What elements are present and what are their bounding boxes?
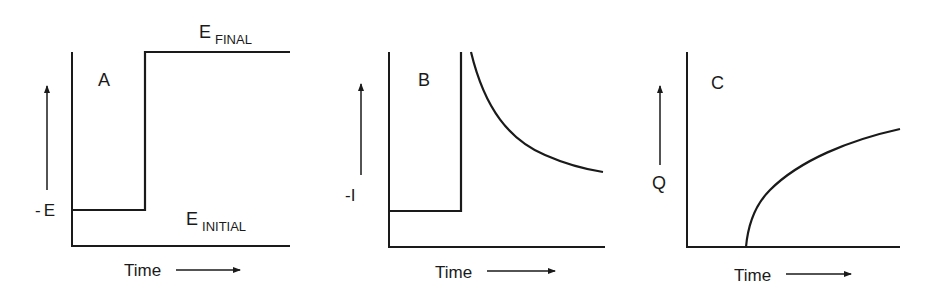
electrochemistry-figure: -E A EFINAL EINITIAL Time -I B Time Q C … (0, 0, 933, 295)
panel-b: -I B Time (345, 52, 605, 282)
panel-b-xlabel: Time (435, 263, 472, 282)
panel-b-letter: B (418, 70, 430, 90)
panel-b-ylabel: -I (345, 186, 355, 205)
panel-a-letter: A (98, 70, 110, 90)
panel-c-letter: C (711, 73, 724, 93)
figure-canvas: -E A EFINAL EINITIAL Time -I B Time Q C … (0, 0, 933, 295)
panel-a-efinal-label: EFINAL (199, 22, 252, 47)
panel-a-xlabel: Time (124, 261, 161, 280)
panel-a-einitial-label: EINITIAL (186, 209, 246, 234)
panel-c-charge-curve (746, 129, 900, 247)
panel-c-xlabel: Time (734, 266, 771, 285)
panel-b-decay-curve (471, 52, 603, 172)
panel-c: Q C Time (652, 52, 900, 285)
panel-a-ylabel: -E (35, 201, 55, 220)
panel-a: -E A EFINAL EINITIAL Time (35, 22, 290, 280)
panel-c-ylabel: Q (652, 173, 666, 193)
